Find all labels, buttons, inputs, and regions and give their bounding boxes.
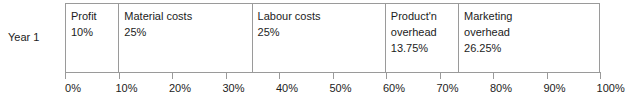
segment-label-production-overhead-line1: Product'n [391, 8, 458, 24]
x-axis: 0% 10% 20% 30% 40% 50% 60% 70% 80% 90% 1… [65, 72, 600, 74]
segment-label-marketing-overhead-line1: Marketing [464, 8, 599, 24]
axis-tick [279, 72, 280, 79]
bar-segment-material-costs[interactable]: Material costs 25% [119, 4, 252, 72]
axis-tick-label-80: 80% [490, 82, 512, 95]
segment-value-marketing-overhead: 26.25% [464, 40, 599, 56]
axis-tick [226, 72, 227, 79]
bar-segment-production-overhead[interactable]: Product'n overhead 13.75% [386, 4, 459, 72]
axis-tick [119, 72, 120, 79]
bar-segment-profit[interactable]: Profit 10% [66, 4, 119, 72]
axis-tick-label-30: 30% [223, 82, 245, 95]
axis-tick-label-90: 90% [544, 82, 566, 95]
axis-tick [333, 72, 334, 79]
segment-label-material-costs: Material costs [124, 8, 251, 24]
category-label-year-1: Year 1 [8, 31, 60, 44]
segment-label-production-overhead-line2: overhead [391, 24, 458, 40]
axis-tick [65, 72, 66, 79]
stacked-bar-chart: Year 1 Profit 10% Material costs 25% Lab… [0, 0, 625, 110]
axis-tick-label-0: 0% [65, 82, 81, 95]
segment-label-marketing-overhead-line2: overhead [464, 24, 599, 40]
segment-value-labour-costs: 25% [258, 24, 385, 40]
axis-tick-label-40: 40% [276, 82, 298, 95]
segment-label-labour-costs: Labour costs [258, 8, 385, 24]
axis-tick-label-20: 20% [169, 82, 191, 95]
bar-segment-labour-costs[interactable]: Labour costs 25% [253, 4, 386, 72]
axis-tick [386, 72, 387, 79]
stacked-bar: Profit 10% Material costs 25% Labour cos… [65, 3, 600, 73]
axis-tick [493, 72, 494, 79]
segment-value-production-overhead: 13.75% [391, 40, 458, 56]
axis-tick-label-10: 10% [116, 82, 138, 95]
axis-tick-label-100: 100% [597, 82, 625, 95]
axis-tick [547, 72, 548, 79]
axis-tick-label-60: 60% [383, 82, 405, 95]
bar-segment-marketing-overhead[interactable]: Marketing overhead 26.25% [459, 4, 599, 72]
axis-tick [172, 72, 173, 79]
segment-label-profit: Profit [71, 8, 118, 24]
segment-value-profit: 10% [71, 24, 118, 40]
axis-tick-label-70: 70% [437, 82, 459, 95]
segment-value-material-costs: 25% [124, 24, 251, 40]
axis-tick [440, 72, 441, 79]
axis-tick [600, 72, 601, 79]
axis-tick-label-50: 50% [330, 82, 352, 95]
